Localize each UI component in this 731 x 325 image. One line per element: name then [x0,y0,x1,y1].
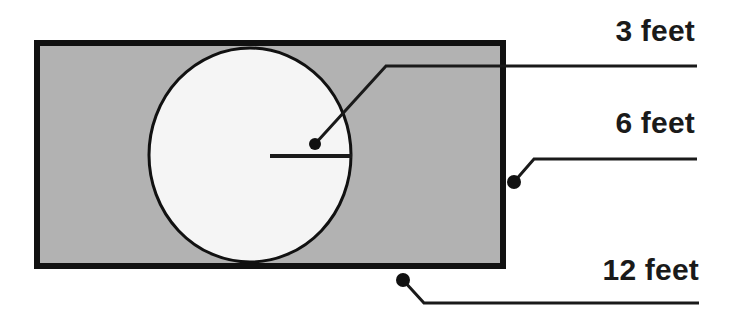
dimension-label-width: 12 feet [603,255,699,285]
dimension-label-height: 6 feet [615,108,695,138]
leader-12feet-dot [396,273,410,287]
leader-3feet-dot [309,138,321,150]
leader-6feet-dot [507,175,521,189]
leader-6feet-line [514,159,697,182]
geometry-diagram: 3 feet 6 feet 12 feet [0,0,731,325]
dimension-label-radius: 3 feet [615,16,695,46]
leader-6feet [507,159,697,189]
